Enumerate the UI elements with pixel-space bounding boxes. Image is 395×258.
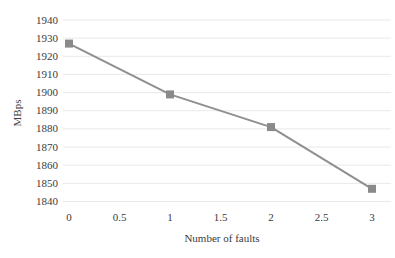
y-tick-label: 1890 <box>36 104 59 116</box>
x-tick-label: 3 <box>369 211 375 223</box>
data-line <box>69 44 372 189</box>
x-tick-label: 0 <box>66 211 72 223</box>
y-axis-title: MBps <box>12 100 23 127</box>
data-point-marker <box>65 40 73 48</box>
data-point-marker <box>368 185 376 193</box>
y-tick-label: 1840 <box>36 195 59 207</box>
line-chart-figure: 1840185018601870188018901900191019201930… <box>0 0 395 258</box>
data-point-marker <box>166 90 174 98</box>
x-tick-label: 0.5 <box>113 211 127 223</box>
y-tick-label: 1930 <box>36 32 59 44</box>
y-tick-label: 1910 <box>36 68 59 80</box>
y-tick-label: 1900 <box>36 86 59 98</box>
x-tick-label: 2 <box>268 211 274 223</box>
y-tick-label: 1920 <box>36 50 59 62</box>
y-tick-label: 1860 <box>36 159 59 171</box>
y-tick-label: 1880 <box>36 122 59 134</box>
data-point-marker <box>267 123 275 131</box>
x-tick-label: 1.5 <box>214 211 228 223</box>
y-tick-label: 1940 <box>36 14 59 26</box>
chart-svg: 1840185018601870188018901900191019201930… <box>0 0 395 258</box>
x-tick-label: 1 <box>167 211 173 223</box>
x-axis-title: Number of faults <box>184 233 259 244</box>
y-tick-label: 1850 <box>36 177 59 189</box>
y-tick-label: 1870 <box>36 141 59 153</box>
x-tick-label: 2.5 <box>315 211 329 223</box>
